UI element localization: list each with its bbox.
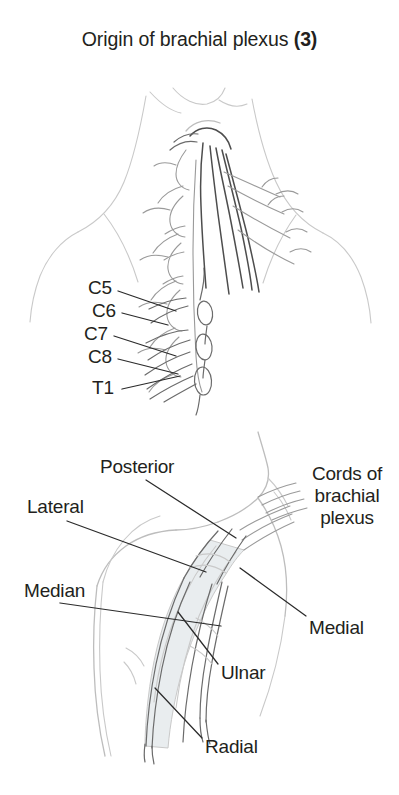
- anatomy-figure: Origin of brachial plexus (3) .ln { fill…: [0, 0, 399, 795]
- cords-label-line-3: plexus: [297, 507, 397, 529]
- brachial-plexus-cords: [184, 483, 307, 584]
- cords-label-line-2: brachial: [297, 485, 397, 507]
- cords-label-line-1: Cords of: [297, 463, 397, 485]
- label-radial-nerve: Radial: [205, 736, 258, 757]
- label-posterior-cord: Posterior: [100, 456, 174, 477]
- nerve-trunk-bundle: [170, 121, 259, 294]
- page-title-count: (3): [294, 28, 318, 50]
- lower-panel-leader-lines: [60, 480, 306, 738]
- cervical-vertebrae: [138, 150, 202, 392]
- upper-panel-body-outline: [30, 88, 371, 323]
- label-cords-of-brachial-plexus: Cords of brachial plexus: [297, 463, 397, 529]
- brachial-plexus-trunks: [194, 268, 215, 415]
- lower-panel-body-outline: [94, 432, 291, 756]
- page-title-text: Origin of brachial plexus: [82, 28, 294, 50]
- page-title: Origin of brachial plexus (3): [0, 27, 399, 51]
- lateral-nerve-branches: [224, 172, 311, 264]
- upper-panel-leader-lines: [114, 291, 180, 389]
- label-t1: T1: [92, 377, 114, 398]
- label-medial-cord: Medial: [309, 617, 364, 638]
- label-lateral-cord: Lateral: [27, 496, 84, 517]
- spinal-nerve-roots: [145, 226, 196, 402]
- label-c6: C6: [92, 300, 116, 321]
- label-c7: C7: [84, 323, 108, 344]
- axillary-neurovascular-sheath: [145, 540, 244, 748]
- label-ulnar-nerve: Ulnar: [221, 662, 265, 683]
- label-median-nerve: Median: [24, 580, 85, 601]
- anatomy-illustration: .ln { fill:none; stroke:#c9c9c9; stroke-…: [0, 0, 399, 795]
- label-c5: C5: [88, 277, 112, 298]
- label-c8: C8: [88, 346, 112, 367]
